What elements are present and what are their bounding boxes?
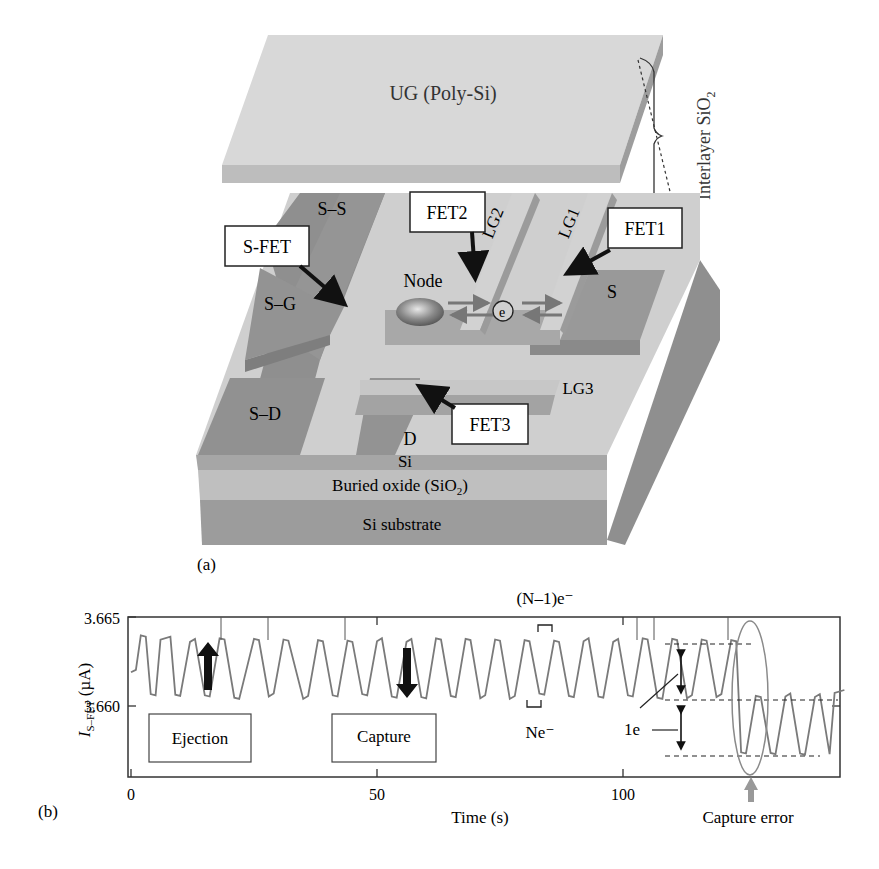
panel-b-chart: 3.665 3.660 0 50 100 Time (s) IS–FET (µA… <box>38 589 844 827</box>
svg-text:e: e <box>499 305 505 320</box>
region-d-label: D <box>404 429 417 449</box>
trace-spikes <box>221 617 728 640</box>
x-tick-100: 100 <box>611 786 635 803</box>
region-ss-label: S–S <box>317 199 346 219</box>
svg-text:FET3: FET3 <box>469 415 510 435</box>
interlayer-label: Interlayer SiO2 <box>694 92 718 200</box>
figure: UG (Poly-Si) Interlayer SiO2 <box>0 0 879 869</box>
one-electron-annotation: 1e <box>624 644 838 756</box>
svg-text:Capture error: Capture error <box>702 808 793 827</box>
y-axis-label: IS–FET (µA) <box>75 663 96 739</box>
svg-text:FET2: FET2 <box>426 203 467 223</box>
y-tick-3-665: 3.665 <box>84 610 120 627</box>
upper-state-label: (N–1)e⁻ <box>516 589 573 608</box>
x-tick-50: 50 <box>369 786 385 803</box>
region-s-label: S <box>607 282 617 302</box>
buried-oxide-label: Buried oxide (SiO2) <box>332 476 468 497</box>
ejection-annotation: Ejection <box>149 642 251 762</box>
capture-error-arrow-icon <box>744 777 758 802</box>
node-sphere-icon <box>396 298 444 326</box>
state-brackets: (N–1)e⁻ Ne⁻ <box>516 589 573 742</box>
svg-text:FET1: FET1 <box>624 219 665 239</box>
si-layer-label: Si <box>398 452 412 471</box>
one-e-label: 1e <box>624 720 640 739</box>
x-axis-label: Time (s) <box>451 808 508 827</box>
region-sd-label: S–D <box>249 404 281 424</box>
svg-text:Ejection: Ejection <box>172 729 229 748</box>
substrate-label: Si substrate <box>363 515 442 534</box>
region-sg-label: S–G <box>264 294 296 314</box>
upper-gate-label: UG (Poly-Si) <box>389 82 496 105</box>
node-label: Node <box>404 271 443 291</box>
svg-text:S-FET: S-FET <box>243 237 291 257</box>
panel-b-label: (b) <box>38 802 58 821</box>
capture-annotation: Capture <box>332 648 436 762</box>
svg-text:Capture: Capture <box>357 727 411 746</box>
upper-gate-slab: UG (Poly-Si) <box>222 35 663 183</box>
x-tick-0: 0 <box>127 786 135 803</box>
panel-a-label: (a) <box>197 555 216 574</box>
lg3-label: LG3 <box>562 379 593 398</box>
lower-state-label: Ne⁻ <box>526 723 555 742</box>
panel-a-device-diagram: UG (Poly-Si) Interlayer SiO2 <box>196 35 720 574</box>
